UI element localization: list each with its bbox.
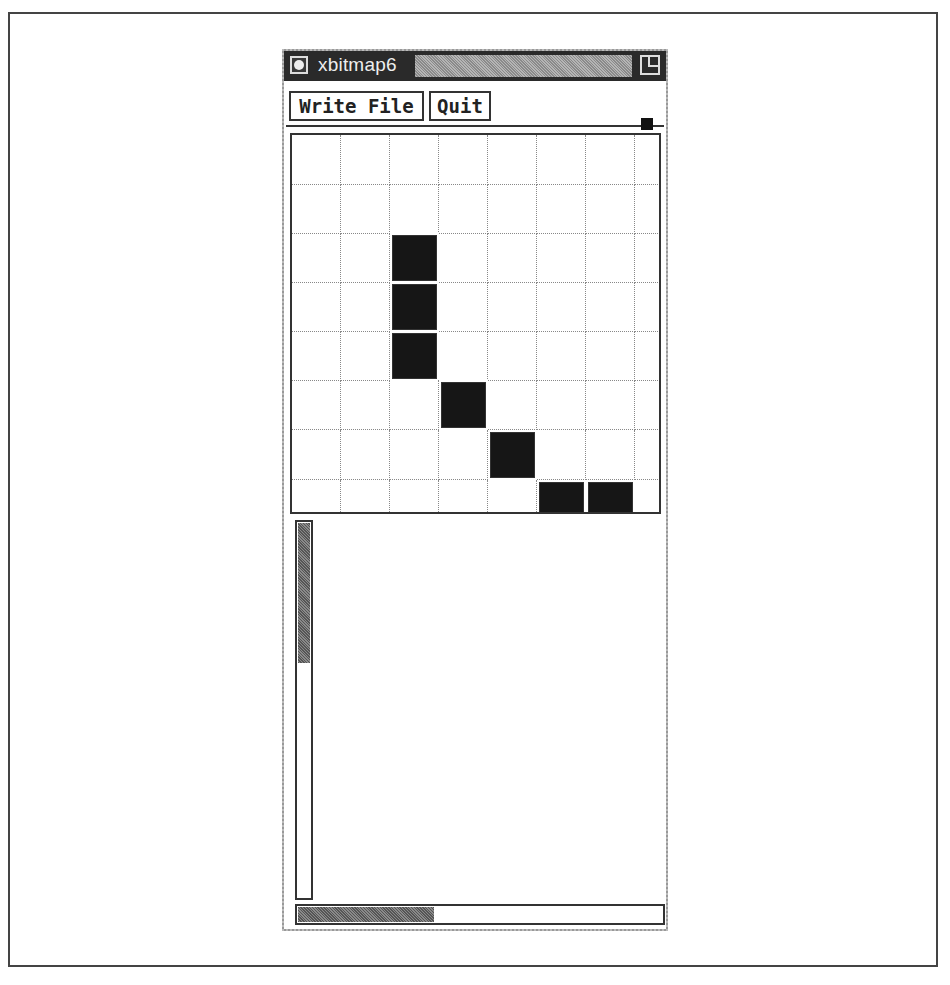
bitmap-cell[interactable]	[488, 135, 537, 185]
pane-divider	[286, 125, 664, 127]
xbitmap-window: xbitmap6 Write File Quit	[282, 49, 668, 931]
quit-button[interactable]: Quit	[429, 91, 491, 121]
toolbar: Write File Quit	[284, 81, 666, 127]
bitmap-cell[interactable]	[390, 380, 439, 430]
bitmap-cell[interactable]	[439, 480, 488, 514]
bitmap-cell[interactable]	[586, 233, 635, 283]
bitmap-cell[interactable]	[341, 331, 390, 381]
bitmap-cell[interactable]	[390, 331, 439, 381]
bitmap-cell[interactable]	[635, 282, 661, 332]
bitmap-cell[interactable]	[439, 135, 488, 185]
bitmap-cell[interactable]	[488, 282, 537, 332]
circle-glyph	[294, 60, 304, 70]
bitmap-cell[interactable]	[635, 233, 661, 283]
title-bar[interactable]: xbitmap6	[284, 51, 666, 81]
bitmap-cell[interactable]	[341, 430, 390, 480]
bitmap-cell[interactable]	[390, 480, 439, 514]
bitmap-cell[interactable]	[390, 135, 439, 185]
bitmap-cell[interactable]	[586, 430, 635, 480]
horizontal-scrollbar[interactable]	[295, 904, 665, 925]
pane-grip-handle[interactable]	[641, 118, 653, 130]
bitmap-cell[interactable]	[586, 380, 635, 430]
bitmap-cell[interactable]	[341, 184, 390, 234]
bitmap-cell[interactable]	[390, 430, 439, 480]
bitmap-cell[interactable]	[537, 430, 586, 480]
bitmap-cell[interactable]	[537, 282, 586, 332]
bitmap-cell[interactable]	[439, 184, 488, 234]
bitmap-cell[interactable]	[292, 282, 341, 332]
bitmap-cell[interactable]	[439, 233, 488, 283]
horizontal-scroll-thumb[interactable]	[298, 907, 434, 922]
bitmap-cell[interactable]	[488, 380, 537, 430]
bitmap-cell[interactable]	[537, 380, 586, 430]
window-menu-icon[interactable]	[290, 56, 308, 74]
bitmap-cell[interactable]	[439, 331, 488, 381]
title-drag-area[interactable]	[415, 55, 632, 77]
bitmap-cell[interactable]	[635, 135, 661, 185]
vertical-scroll-thumb[interactable]	[298, 523, 310, 663]
bitmap-cell[interactable]	[390, 233, 439, 283]
bitmap-cell[interactable]	[341, 233, 390, 283]
bitmap-cell[interactable]	[635, 480, 661, 514]
bitmap-cell[interactable]	[586, 282, 635, 332]
bitmap-cell[interactable]	[537, 184, 586, 234]
write-file-button[interactable]: Write File	[289, 91, 424, 121]
bitmap-cell[interactable]	[635, 380, 661, 430]
bitmap-cell[interactable]	[488, 331, 537, 381]
bitmap-cell[interactable]	[488, 430, 537, 480]
bitmap-cell[interactable]	[292, 430, 341, 480]
bitmap-cell[interactable]	[537, 233, 586, 283]
bitmap-cell[interactable]	[586, 480, 635, 514]
bitmap-cell[interactable]	[488, 184, 537, 234]
bitmap-cell[interactable]	[537, 331, 586, 381]
bitmap-cell[interactable]	[537, 135, 586, 185]
bitmap-cell[interactable]	[292, 380, 341, 430]
bitmap-cell[interactable]	[390, 184, 439, 234]
bitmap-cell[interactable]	[341, 282, 390, 332]
vertical-scrollbar[interactable]	[295, 520, 313, 900]
bitmap-cell[interactable]	[439, 282, 488, 332]
bitmap-cell[interactable]	[586, 184, 635, 234]
bitmap-cell[interactable]	[439, 380, 488, 430]
bitmap-cell[interactable]	[292, 184, 341, 234]
window-title: xbitmap6	[318, 54, 397, 76]
bitmap-cell[interactable]	[635, 430, 661, 480]
bitmap-cell[interactable]	[390, 282, 439, 332]
bitmap-cell[interactable]	[292, 480, 341, 514]
bitmap-cell[interactable]	[341, 135, 390, 185]
bitmap-cell[interactable]	[341, 380, 390, 430]
bitmap-editor-grid[interactable]	[290, 133, 661, 514]
bitmap-cell[interactable]	[537, 480, 586, 514]
resize-glyph	[648, 55, 658, 67]
bitmap-cell[interactable]	[292, 135, 341, 185]
bitmap-cell[interactable]	[488, 233, 537, 283]
bitmap-cell[interactable]	[635, 331, 661, 381]
bitmap-cell[interactable]	[292, 331, 341, 381]
resize-icon[interactable]	[640, 55, 660, 75]
bitmap-cell[interactable]	[635, 184, 661, 234]
bitmap-cell[interactable]	[586, 135, 635, 185]
bitmap-cell[interactable]	[341, 480, 390, 514]
bitmap-cell[interactable]	[439, 430, 488, 480]
bitmap-cell[interactable]	[586, 331, 635, 381]
bitmap-cell[interactable]	[488, 480, 537, 514]
bitmap-cell[interactable]	[292, 233, 341, 283]
